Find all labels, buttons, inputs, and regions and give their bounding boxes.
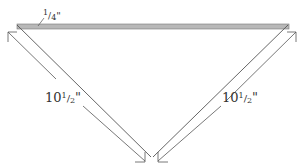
left-side-label: 101/2" bbox=[45, 89, 81, 105]
right-unit: " bbox=[252, 90, 258, 105]
left-unit: " bbox=[75, 90, 81, 105]
left-dim-line-upper bbox=[8, 32, 56, 79]
thickness-unit: " bbox=[56, 10, 61, 21]
left-whole: 10 bbox=[45, 90, 62, 105]
triangle-diagram bbox=[0, 0, 302, 166]
right-side-label: 101/2" bbox=[222, 89, 258, 105]
right-side-line bbox=[153, 25, 288, 157]
top-bar bbox=[17, 24, 289, 29]
left-dim-line-lower bbox=[83, 106, 145, 161]
left-side-line bbox=[17, 25, 151, 157]
right-dim-line-lower bbox=[158, 106, 221, 161]
thickness-label: 1/4" bbox=[43, 6, 61, 22]
right-whole: 10 bbox=[222, 90, 239, 105]
